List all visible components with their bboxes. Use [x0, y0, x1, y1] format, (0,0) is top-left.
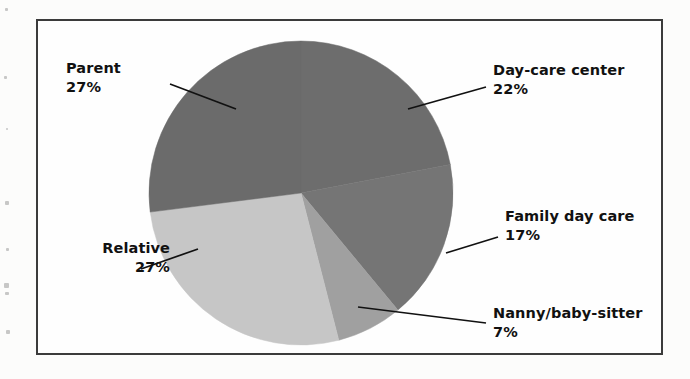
- pie-label-relative-name: Relative: [102, 240, 170, 256]
- pie-label-parent-name: Parent: [66, 60, 121, 76]
- pie-label-parent: Parent 27%: [66, 59, 121, 96]
- pie-label-relative: Relative 27%: [50, 239, 170, 276]
- pie-label-family-day-care-percent: 17%: [505, 226, 634, 245]
- pie-label-nanny-baby-sitter-name: Nanny/baby-sitter: [493, 305, 642, 321]
- pie-label-parent-percent: 27%: [66, 78, 121, 97]
- pie-label-family-day-care-name: Family day care: [505, 208, 634, 224]
- pie-label-nanny-baby-sitter: Nanny/baby-sitter 7%: [493, 304, 642, 341]
- page-edge-scan-artifacts: [0, 0, 34, 379]
- pie-chart: [148, 40, 454, 346]
- pie-chart-svg: [148, 40, 454, 346]
- pie-label-daycare-center: Day-care center 22%: [493, 61, 624, 98]
- pie-label-daycare-center-percent: 22%: [493, 80, 624, 99]
- pie-chart-frame: Parent 27% Day-care center 22% Family da…: [36, 19, 663, 355]
- pie-label-family-day-care: Family day care 17%: [505, 207, 634, 244]
- pie-label-relative-percent: 27%: [50, 258, 170, 277]
- pie-slices-group: [149, 41, 453, 345]
- pie-label-daycare-center-name: Day-care center: [493, 62, 624, 78]
- pie-label-nanny-baby-sitter-percent: 7%: [493, 323, 642, 342]
- pie-slice-parent: [149, 41, 301, 212]
